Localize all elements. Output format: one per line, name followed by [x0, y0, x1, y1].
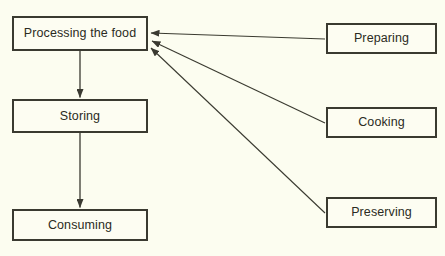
node-storing[interactable]: Storing: [12, 99, 148, 133]
edge-preparing-to-processing: [151, 33, 325, 39]
node-preserving-label: Preserving: [351, 206, 412, 219]
node-preparing[interactable]: Preparing: [326, 23, 437, 54]
node-cooking[interactable]: Cooking: [326, 107, 437, 138]
node-consuming-label: Consuming: [48, 219, 112, 232]
node-preserving[interactable]: Preserving: [326, 197, 437, 228]
edge-cooking-to-processing: [152, 41, 325, 123]
node-storing-label: Storing: [60, 110, 100, 123]
node-processing-the-food[interactable]: Processing the food: [12, 16, 148, 51]
edge-preserving-to-processing: [151, 48, 325, 213]
node-processing-the-food-label: Processing the food: [24, 27, 136, 40]
node-cooking-label: Cooking: [358, 116, 405, 129]
node-consuming[interactable]: Consuming: [12, 209, 148, 241]
node-preparing-label: Preparing: [354, 32, 409, 45]
diagram-canvas: Processing the food Storing Consuming Pr…: [0, 0, 445, 256]
